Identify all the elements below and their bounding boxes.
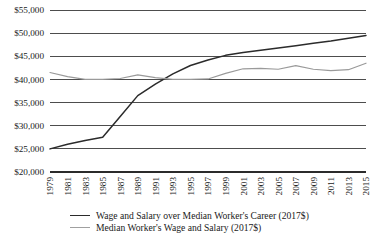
y-axis-tick-label: $35,000 [14,98,44,108]
x-axis-tick-label: 1991 [151,177,161,196]
legend-item: Wage and Salary over Median Worker's Car… [70,210,370,221]
x-axis-tick-label: 1993 [168,177,178,196]
y-axis-tick-label: $50,000 [14,28,44,38]
line-chart: $55,000$50,000$45,000$40,000$35,000$30,0… [0,0,373,240]
gridlines [50,10,366,172]
x-axis-tick-label: 2009 [309,177,319,196]
legend-color-swatch [70,227,90,228]
x-axis-tick-label: 2001 [239,177,249,196]
legend-item-label: Wage and Salary over Median Worker's Car… [96,210,309,221]
x-axis-tick-label: 1999 [221,177,231,196]
series-line [50,35,366,148]
chart-legend: Wage and Salary over Median Worker's Car… [70,210,370,234]
y-axis-tick-label: $30,000 [14,121,44,131]
x-axis-tick-label: 1979 [45,177,55,196]
legend-color-swatch [70,215,90,216]
x-axis-tick-label: 1989 [133,177,143,196]
x-axis-tick-label: 2013 [344,177,354,196]
x-axis-tick-label: 1983 [81,177,91,196]
legend-item: Median Worker's Wage and Salary (2017$) [70,222,370,233]
x-axis-tick-label: 1995 [186,177,196,196]
x-axis-tick-label: 1987 [116,177,126,196]
x-axis-tick-label: 2011 [326,177,336,195]
legend-item-label: Median Worker's Wage and Salary (2017$) [96,222,261,233]
x-axis-tick-label: 2005 [274,177,284,196]
y-axis-tick-label: $20,000 [14,167,44,177]
x-axis-tick-label: 1981 [63,177,73,196]
series-line [50,63,366,79]
y-axis-tick-label: $40,000 [14,75,44,85]
chart-plot-area: $55,000$50,000$45,000$40,000$35,000$30,0… [0,0,373,240]
data-series [50,35,366,148]
y-axis-tick-label: $25,000 [14,144,44,154]
y-axis-tick-label: $45,000 [14,51,44,61]
x-axis-tick-label: 2003 [256,177,266,196]
x-axis-tick-labels: 1979198119831985198719891991199319951997… [45,177,371,196]
x-axis-tick-label: 1997 [203,177,213,196]
x-axis-tick-label: 1985 [98,177,108,196]
x-axis-tick-label: 2007 [291,177,301,196]
y-axis-tick-label: $55,000 [14,5,44,15]
y-axis-tick-labels: $55,000$50,000$45,000$40,000$35,000$30,0… [14,5,44,177]
x-axis-tick-label: 2015 [361,177,371,196]
